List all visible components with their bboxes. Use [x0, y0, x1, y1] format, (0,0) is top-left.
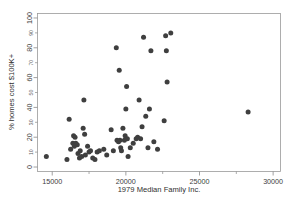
- scatter-plot-svg: 0204060801001030507090 15000200002500030…: [0, 0, 291, 204]
- x-tick-label: 30000: [263, 177, 283, 186]
- data-point: [97, 148, 102, 153]
- data-point: [44, 154, 49, 159]
- data-point: [143, 114, 148, 119]
- data-point: [75, 142, 80, 147]
- data-point: [81, 126, 86, 131]
- data-point: [82, 132, 87, 137]
- data-point: [117, 68, 122, 73]
- data-point: [165, 80, 170, 85]
- y-tick-label: 80: [25, 44, 34, 52]
- data-point: [104, 153, 109, 158]
- data-point: [81, 97, 86, 102]
- data-point: [123, 106, 128, 111]
- data-point: [73, 135, 78, 140]
- data-point: [155, 147, 160, 152]
- data-point: [109, 127, 114, 132]
- x-axis: 15000200002500030000: [42, 172, 283, 186]
- data-point: [67, 117, 72, 122]
- y-tick-label: 60: [25, 74, 34, 82]
- data-point: [140, 124, 145, 129]
- data-point: [138, 136, 143, 141]
- y-axis-title: % homes cost $100K+: [7, 53, 16, 130]
- data-point: [119, 148, 124, 153]
- data-point: [128, 145, 133, 150]
- data-point: [64, 157, 69, 162]
- data-point: [126, 154, 131, 159]
- y-tick-label: 0: [25, 165, 34, 169]
- x-tick-label: 15000: [42, 177, 62, 186]
- data-point: [111, 148, 116, 153]
- data-point: [168, 30, 173, 35]
- data-point: [163, 33, 168, 38]
- data-points-layer: [44, 30, 251, 162]
- y-tick-label-minor: 50: [28, 90, 34, 96]
- y-tick-label: 100: [25, 12, 34, 24]
- data-point: [117, 138, 122, 143]
- data-point: [92, 157, 97, 162]
- data-point: [88, 148, 93, 153]
- data-point: [131, 141, 136, 146]
- data-point: [151, 139, 156, 144]
- data-point: [137, 97, 142, 102]
- scatter-plot-figure: 0204060801001030507090 15000200002500030…: [0, 0, 291, 204]
- data-point: [78, 148, 83, 153]
- data-point: [120, 126, 125, 131]
- data-point: [145, 145, 150, 150]
- data-point: [124, 84, 129, 89]
- data-point: [125, 136, 130, 141]
- data-point: [147, 106, 152, 111]
- data-point: [114, 45, 119, 50]
- y-axis: 0204060801001030507090: [25, 12, 37, 169]
- data-point: [162, 118, 167, 123]
- y-tick-label-minor: 70: [28, 60, 34, 66]
- data-point: [85, 144, 90, 149]
- y-tick-label-minor: 90: [28, 30, 34, 36]
- data-point: [164, 48, 169, 53]
- data-point: [101, 147, 106, 152]
- data-point: [246, 109, 251, 114]
- data-point: [141, 35, 146, 40]
- y-tick-label-minor: 30: [28, 119, 34, 125]
- y-tick-label-minor: 10: [28, 149, 34, 155]
- data-point: [148, 48, 153, 53]
- y-tick-label: 20: [25, 133, 34, 141]
- y-tick-label: 40: [25, 103, 34, 111]
- x-axis-title: 1979 Median Family Inc.: [118, 185, 201, 194]
